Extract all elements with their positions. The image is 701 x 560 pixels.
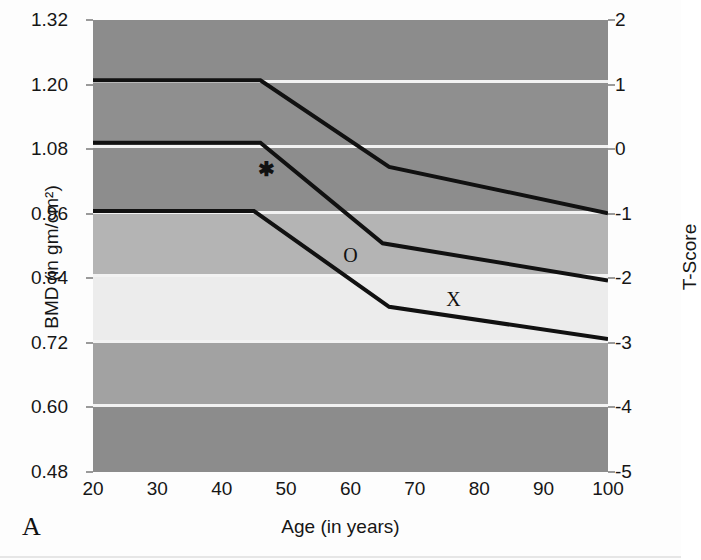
x-axis-title: Age (in years) xyxy=(0,516,681,538)
y-right-tick-mark xyxy=(608,84,615,86)
x-tick-label: 90 xyxy=(533,478,554,500)
y-right-tick-label: -2 xyxy=(615,267,632,289)
y-left-tick-mark xyxy=(86,277,93,279)
y-right-tick-mark xyxy=(608,213,615,215)
y-left-tick-label: 0.60 xyxy=(31,396,68,418)
y-left-tick-mark xyxy=(86,342,93,344)
y-right-tick-mark xyxy=(608,148,615,150)
y-right-tick-mark xyxy=(608,277,615,279)
y-right-tick-label: -3 xyxy=(615,332,632,354)
panel-letter: A xyxy=(22,512,41,542)
y-right-tick-label: 1 xyxy=(615,74,626,96)
marker-cross: X xyxy=(446,289,460,309)
x-tick-label: 30 xyxy=(147,478,168,500)
y-right-tick-mark xyxy=(608,342,615,344)
y-axis-left-title: BMD (in gm/cm²) xyxy=(41,127,63,387)
y-left-tick-label: 0.48 xyxy=(31,461,68,483)
x-tick-label: 70 xyxy=(404,478,425,500)
marker-star: ✱ xyxy=(258,159,275,179)
y-left-tick-mark xyxy=(86,19,93,21)
y-right-tick-mark xyxy=(608,19,615,21)
figure-bottom-rule xyxy=(0,556,681,558)
y-left-tick-label: 1.32 xyxy=(31,9,68,31)
y-axis-right-title: T-Score xyxy=(679,127,701,387)
y-right-tick-label: 2 xyxy=(615,9,626,31)
x-tick-label: 20 xyxy=(82,478,103,500)
y-left-tick-mark xyxy=(86,84,93,86)
marker-circle: O xyxy=(343,245,357,265)
y-right-tick-mark xyxy=(608,471,615,473)
y-right-tick-mark xyxy=(608,406,615,408)
x-tick-label: 60 xyxy=(340,478,361,500)
y-left-tick-label: 1.20 xyxy=(31,74,68,96)
y-left-tick-mark xyxy=(86,471,93,473)
x-tick-label: 80 xyxy=(469,478,490,500)
y-right-tick-label: -4 xyxy=(615,396,632,418)
series-line-2 xyxy=(93,211,608,339)
x-tick-label: 100 xyxy=(592,478,624,500)
y-right-tick-label: 0 xyxy=(615,138,626,160)
x-tick-label: 40 xyxy=(211,478,232,500)
series-line-0 xyxy=(93,80,608,213)
plot-area: ✱OX xyxy=(93,20,608,472)
y-left-tick-mark xyxy=(86,213,93,215)
y-left-tick-mark xyxy=(86,148,93,150)
y-left-tick-mark xyxy=(86,406,93,408)
x-tick-label: 50 xyxy=(276,478,297,500)
y-right-tick-label: -1 xyxy=(615,203,632,225)
